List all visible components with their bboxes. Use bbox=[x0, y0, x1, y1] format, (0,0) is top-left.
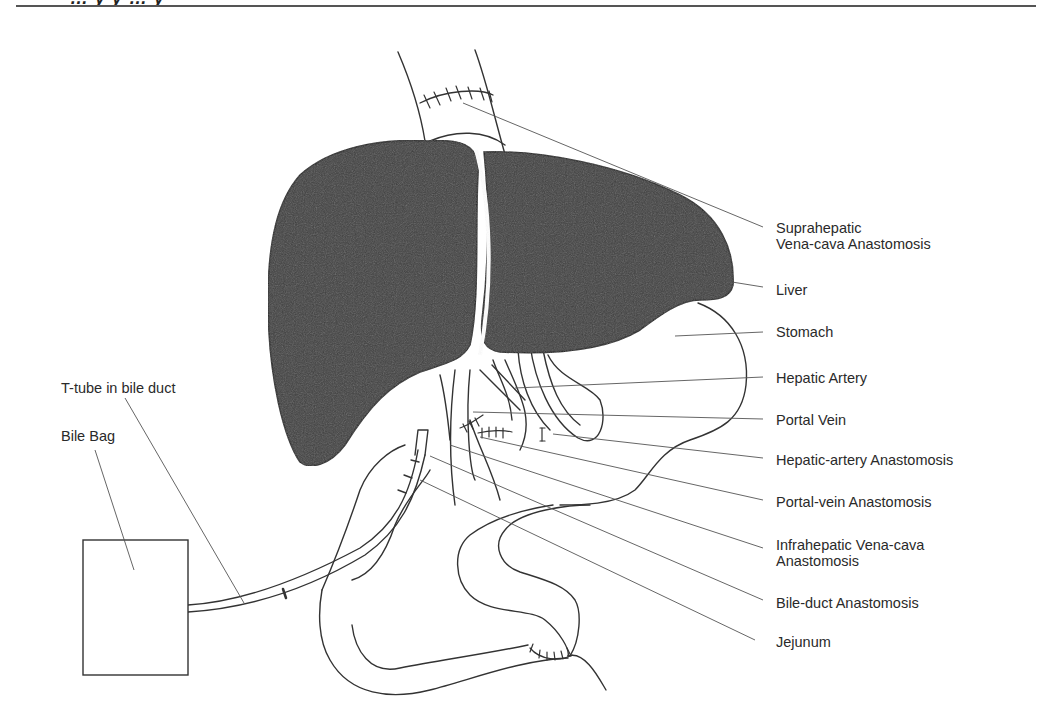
leader-portal-vein bbox=[473, 412, 763, 419]
hilar-vessels bbox=[440, 345, 603, 505]
bile-bag bbox=[83, 540, 188, 675]
leader-hepatic-artery-anastomosis bbox=[553, 434, 763, 458]
label-line: Suprahepatic bbox=[776, 220, 931, 236]
bowel-loop-inner bbox=[352, 470, 430, 580]
leader-stomach bbox=[675, 332, 763, 336]
label-t-tube: T-tube in bile duct bbox=[61, 380, 175, 396]
label-line: Infrahepatic Vena-cava bbox=[776, 537, 924, 553]
label-jejunum: Jejunum bbox=[776, 634, 831, 650]
label-infrahepatic: Infrahepatic Vena-cava Anastomosis bbox=[776, 537, 924, 569]
label-line: Vena-cava Anastomosis bbox=[776, 236, 931, 252]
vascular-sutures bbox=[460, 415, 545, 441]
label-bile-bag: Bile Bag bbox=[61, 428, 115, 444]
label-liver: Liver bbox=[776, 282, 807, 298]
label-hepatic-artery-anastomosis: Hepatic-artery Anastomosis bbox=[776, 452, 953, 468]
label-line: Anastomosis bbox=[776, 553, 924, 569]
label-bile-duct-anastomosis: Bile-duct Anastomosis bbox=[776, 595, 919, 611]
label-hepatic-artery: Hepatic Artery bbox=[776, 370, 867, 386]
label-portal-vein: Portal Vein bbox=[776, 412, 846, 428]
label-stomach: Stomach bbox=[776, 324, 833, 340]
label-suprahepatic: Suprahepatic Vena-cava Anastomosis bbox=[776, 220, 931, 252]
jejunum bbox=[320, 505, 606, 695]
label-portal-vein-anastomosis: Portal-vein Anastomosis bbox=[776, 494, 932, 510]
liver-left-lobe bbox=[482, 152, 734, 353]
